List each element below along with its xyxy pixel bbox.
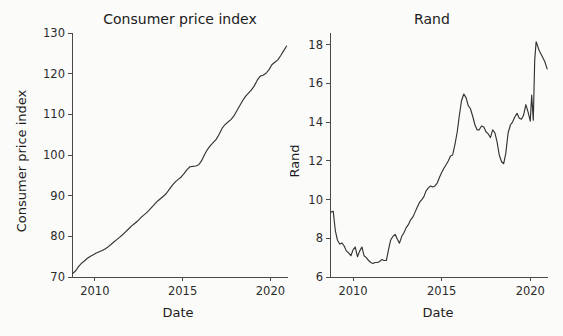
- rand-svg: Rand Rand Date 681012141618 201020152020: [290, 0, 563, 336]
- y-tick-label: 10: [308, 193, 323, 207]
- cpi-axes: [72, 33, 288, 277]
- y-tick-label: 120: [43, 67, 65, 81]
- rand-series-line: [331, 42, 547, 264]
- y-tick-label: 90: [50, 189, 65, 203]
- cpi-svg: Consumer price index Consumer price inde…: [0, 0, 290, 336]
- cpi-x-tick-group: 201020152020: [80, 277, 285, 298]
- cpi-series-line: [73, 46, 287, 273]
- chart-panel-rand: Rand Rand Date 681012141618 201020152020: [290, 0, 563, 336]
- cpi-y-axis-title: Consumer price index: [14, 89, 29, 232]
- x-tick-label: 2010: [338, 284, 367, 298]
- rand-x-tick-group: 201020152020: [338, 277, 545, 298]
- x-tick-label: 2020: [516, 284, 545, 298]
- y-tick-label: 130: [43, 26, 65, 40]
- rand-x-axis-title: Date: [422, 305, 453, 320]
- y-tick-label: 18: [308, 38, 323, 52]
- y-tick-label: 12: [308, 154, 323, 168]
- rand-y-axis-title: Rand: [290, 144, 302, 177]
- y-tick-label: 16: [308, 76, 323, 90]
- y-tick-label: 80: [50, 229, 65, 243]
- y-tick-label: 100: [43, 148, 65, 162]
- x-tick-label: 2010: [80, 284, 109, 298]
- x-tick-label: 2015: [427, 284, 456, 298]
- cpi-y-tick-group: 708090100110120130: [43, 26, 72, 284]
- chart-panel-consumer-price-index: Consumer price index Consumer price inde…: [0, 0, 290, 336]
- y-tick-label: 8: [316, 231, 323, 245]
- rand-chart-title: Rand: [414, 11, 450, 27]
- rand-y-tick-group: 681012141618: [308, 38, 330, 284]
- x-tick-label: 2020: [256, 284, 285, 298]
- cpi-chart-title: Consumer price index: [103, 11, 256, 27]
- y-tick-label: 110: [43, 107, 65, 121]
- x-tick-label: 2015: [168, 284, 197, 298]
- y-tick-label: 70: [50, 270, 65, 284]
- figure-canvas: Consumer price index Consumer price inde…: [0, 0, 563, 336]
- y-tick-label: 6: [316, 270, 323, 284]
- y-tick-label: 14: [308, 115, 323, 129]
- rand-axes: [330, 33, 548, 277]
- cpi-x-axis-title: Date: [162, 305, 193, 320]
